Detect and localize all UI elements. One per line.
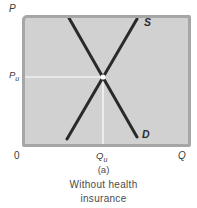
- equilibrium-point: [100, 74, 105, 79]
- equilibrium-price-label: Pu: [9, 69, 19, 80]
- supply-curve-label: S: [144, 16, 151, 28]
- equilibrium-price-subscript: u: [15, 75, 19, 82]
- panel-label: (a): [10, 164, 197, 175]
- origin-label: 0: [14, 150, 20, 161]
- x-axis-label: Q: [178, 150, 186, 161]
- supply-demand-figure: P Pu S D 0 Qu Q (a) Without health insur…: [0, 0, 197, 208]
- demand-curve-label: D: [142, 128, 150, 140]
- caption-line-1: Without health: [10, 178, 197, 192]
- figure-caption: (a) Without health insurance: [0, 164, 197, 206]
- caption-line-2: insurance: [10, 192, 197, 206]
- y-axis-label: P: [9, 3, 16, 14]
- supply-demand-canvas: [25, 18, 188, 144]
- equilibrium-quantity-label: Qu: [96, 150, 107, 161]
- plot-area: S D: [22, 15, 191, 147]
- equilibrium-quantity-subscript: u: [103, 156, 107, 163]
